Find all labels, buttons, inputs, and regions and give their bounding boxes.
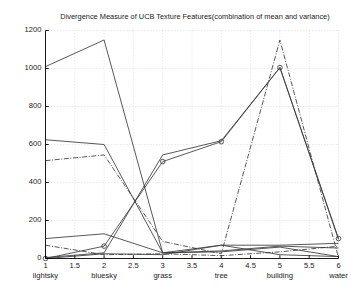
gridlines <box>46 31 339 259</box>
y-tick-label: 800 <box>16 102 42 110</box>
x-category-label-bluesky: bluesky <box>76 272 132 280</box>
x-tick-label: 6 <box>319 262 359 270</box>
x-category-label-lightsky: lightsky <box>18 272 74 280</box>
y-tick-label: 1200 <box>16 26 42 34</box>
y-tick-label: 400 <box>16 178 42 186</box>
y-tick-label: 1000 <box>16 64 42 72</box>
y-tick-label: 200 <box>16 216 42 224</box>
x-category-label-water: water <box>311 272 361 280</box>
plot-area <box>0 0 361 291</box>
x-category-label-tree: tree <box>193 272 249 280</box>
x-category-label-grass: grass <box>135 272 191 280</box>
figure-canvas: Divergence Measure of UCB Texture Featur… <box>0 0 361 291</box>
x-category-label-building: building <box>252 272 308 280</box>
y-tick-label: 600 <box>16 140 42 148</box>
